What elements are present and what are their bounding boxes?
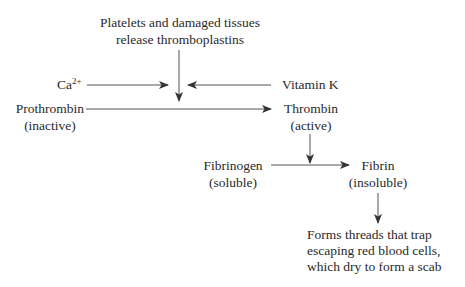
outcome-line1: Forms threads that trap [307,227,442,243]
fibrin-state: (insoluble) [343,174,413,191]
fibrinogen-node: Fibrinogen (soluble) [198,157,268,191]
calcium-label: Ca2+ [57,76,82,93]
thromboplastins-label: Platelets and damaged tissues release th… [90,14,270,48]
calcium-charge: 2+ [72,76,82,86]
vitamin-k-label: Vitamin K [282,76,339,93]
thromboplastins-line1: Platelets and damaged tissues [90,14,270,31]
thromboplastins-line2: release thromboplastins [90,31,270,48]
prothrombin-state: (inactive) [10,117,90,134]
thrombin-label: Thrombin [276,100,346,117]
fibrin-label: Fibrin [343,157,413,174]
calcium-base: Ca [57,77,72,92]
prothrombin-node: Prothrombin (inactive) [10,100,90,134]
outcome-line2: escaping red blood cells, [307,243,442,259]
fibrinogen-label: Fibrinogen [198,157,268,174]
prothrombin-label: Prothrombin [10,100,90,117]
thrombin-node: Thrombin (active) [276,100,346,134]
outcome-line3: which dry to form a scab [307,259,442,275]
fibrinogen-state: (soluble) [198,174,268,191]
thrombin-state: (active) [276,117,346,134]
outcome-text: Forms threads that trap escaping red blo… [307,227,442,275]
fibrin-node: Fibrin (insoluble) [343,157,413,191]
